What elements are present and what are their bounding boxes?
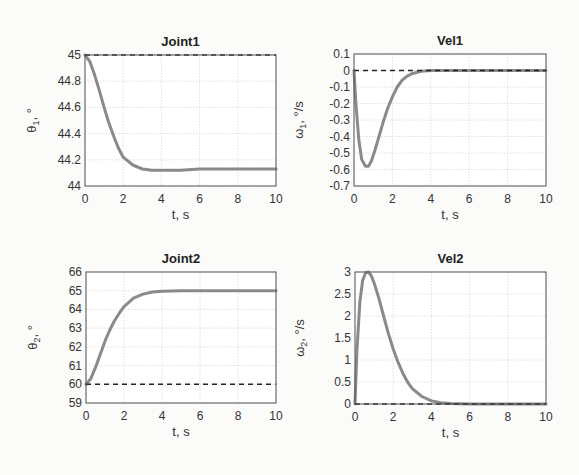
y-tick-label: -0.3 <box>329 113 350 127</box>
subplot-joint1: 02468104444.244.444.644.845Joint1t, sθ1,… <box>24 34 283 222</box>
x-axis-label: t, s <box>442 425 460 440</box>
x-tick-label: 8 <box>235 409 242 423</box>
y-tick-label: 45 <box>68 48 82 62</box>
y-tick-label: -0.2 <box>329 97 350 111</box>
y-axis-label: ω2, °/s <box>292 319 309 357</box>
y-tick-label: 64 <box>69 302 83 316</box>
x-tick-label: 0 <box>351 192 358 206</box>
subplot-vel1: 0246810-0.7-0.6-0.5-0.4-0.3-0.2-0.100.1V… <box>291 33 553 222</box>
x-tick-label: 10 <box>539 192 553 206</box>
x-tick-label: 6 <box>196 192 203 206</box>
y-tick-label: -0.4 <box>329 130 350 144</box>
x-tick-label: 4 <box>158 192 165 206</box>
y-tick-label: 0.5 <box>334 375 351 389</box>
y-tick-label: -0.6 <box>329 163 350 177</box>
x-axis-label: t, s <box>172 424 190 439</box>
x-tick-label: 0 <box>352 410 359 424</box>
y-tick-label: 44.8 <box>58 74 82 88</box>
x-tick-label: 4 <box>159 409 166 423</box>
plot-area <box>85 55 276 186</box>
x-tick-label: 6 <box>466 410 473 424</box>
y-tick-label: 65 <box>69 284 83 298</box>
x-tick-label: 0 <box>82 192 89 206</box>
x-tick-label: 8 <box>504 192 511 206</box>
y-tick-label: 2.5 <box>334 287 351 301</box>
y-tick-label: -0.7 <box>329 179 350 193</box>
y-tick-label: 66 <box>69 265 83 279</box>
x-axis-label: t, s <box>441 207 459 222</box>
y-tick-label: 0 <box>344 397 351 411</box>
y-axis-label: θ1, ° <box>24 108 41 133</box>
figure: 02468104444.244.444.644.845Joint1t, sθ1,… <box>0 0 579 475</box>
y-tick-label: 44.6 <box>58 100 82 114</box>
plot-title: Vel2 <box>437 251 463 266</box>
y-tick-label: 3 <box>344 265 351 279</box>
y-tick-label: 62 <box>69 340 83 354</box>
y-tick-label: 1 <box>344 353 351 367</box>
y-tick-label: 44.2 <box>58 153 82 167</box>
y-tick-label: 63 <box>69 321 83 335</box>
y-tick-label: 0.1 <box>333 47 350 61</box>
subplot-vel2: 024681000.511.522.53Vel2t, sω2, °/s <box>292 251 553 440</box>
x-tick-label: 4 <box>427 192 434 206</box>
x-tick-label: 0 <box>83 409 90 423</box>
plot-title: Vel1 <box>437 33 463 48</box>
subplot-joint2: 02468105960616263646566Joint2t, sθ2, ° <box>25 251 283 439</box>
x-tick-label: 6 <box>197 409 204 423</box>
plot-title: Joint2 <box>162 251 200 266</box>
x-tick-label: 2 <box>390 410 397 424</box>
x-tick-label: 8 <box>234 192 241 206</box>
x-tick-label: 2 <box>121 409 128 423</box>
y-tick-label: 44 <box>68 179 82 193</box>
x-tick-label: 10 <box>269 409 283 423</box>
y-axis-label: ω1, °/s <box>291 101 308 139</box>
x-tick-label: 10 <box>539 410 553 424</box>
y-tick-label: 60 <box>69 377 83 391</box>
y-tick-label: 44.4 <box>58 127 82 141</box>
x-tick-label: 2 <box>120 192 127 206</box>
y-tick-label: 61 <box>69 359 83 373</box>
y-tick-label: 59 <box>69 396 83 410</box>
x-tick-label: 10 <box>269 192 283 206</box>
x-tick-label: 4 <box>428 410 435 424</box>
x-tick-label: 6 <box>466 192 473 206</box>
x-tick-label: 2 <box>389 192 396 206</box>
y-axis-label: θ2, ° <box>25 325 42 350</box>
y-tick-label: 0 <box>343 64 350 78</box>
y-tick-label: -0.1 <box>329 80 350 94</box>
y-tick-label: -0.5 <box>329 146 350 160</box>
y-tick-label: 2 <box>344 309 351 323</box>
plot-title: Joint1 <box>161 34 199 49</box>
x-axis-label: t, s <box>172 207 190 222</box>
y-tick-label: 1.5 <box>334 331 351 345</box>
x-tick-label: 8 <box>504 410 511 424</box>
